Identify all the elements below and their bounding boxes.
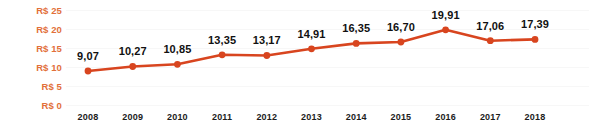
y-axis-tick-label: R$ 5 bbox=[10, 81, 62, 92]
y-axis-tick-label: R$ 0 bbox=[10, 100, 62, 111]
x-axis-tick-label: 2009 bbox=[111, 112, 155, 122]
y-axis-tick-label: R$ 10 bbox=[10, 62, 62, 73]
data-point-marker bbox=[398, 39, 405, 46]
data-point-marker bbox=[532, 36, 539, 43]
data-value-label: 9,07 bbox=[65, 50, 111, 62]
data-value-label: 17,06 bbox=[467, 20, 513, 32]
x-axis-tick-label: 2016 bbox=[424, 112, 468, 122]
data-value-label: 16,35 bbox=[333, 22, 379, 34]
data-value-label: 13,35 bbox=[199, 34, 245, 46]
data-value-label: 19,91 bbox=[423, 9, 469, 21]
line-chart: R$ 0R$ 5R$ 10R$ 15R$ 20R$ 25 20082009201… bbox=[0, 0, 589, 134]
data-point-marker bbox=[353, 40, 360, 47]
data-value-label: 13,17 bbox=[244, 34, 290, 46]
data-value-label: 14,91 bbox=[289, 28, 335, 40]
x-axis-tick-label: 2013 bbox=[290, 112, 334, 122]
data-value-label: 10,27 bbox=[110, 45, 156, 57]
y-axis-tick-label: R$ 15 bbox=[10, 43, 62, 54]
data-point-marker bbox=[219, 51, 226, 58]
y-axis-tick-label: R$ 20 bbox=[10, 24, 62, 35]
x-axis-tick-label: 2015 bbox=[379, 112, 423, 122]
data-point-marker bbox=[174, 61, 181, 68]
x-axis-tick-label: 2012 bbox=[245, 112, 289, 122]
x-axis-tick-label: 2014 bbox=[334, 112, 378, 122]
data-value-label: 16,70 bbox=[378, 21, 424, 33]
data-point-marker bbox=[308, 45, 315, 52]
y-axis-tick-label: R$ 25 bbox=[10, 5, 62, 16]
data-point-marker bbox=[85, 68, 92, 75]
x-axis-tick-label: 2018 bbox=[513, 112, 557, 122]
data-value-label: 17,39 bbox=[512, 18, 558, 30]
data-value-label: 10,85 bbox=[154, 43, 200, 55]
data-point-marker bbox=[129, 63, 136, 70]
x-axis-tick-label: 2010 bbox=[155, 112, 199, 122]
data-point-marker bbox=[263, 52, 270, 59]
x-axis-tick-label: 2011 bbox=[200, 112, 244, 122]
data-point-marker bbox=[487, 37, 494, 44]
data-point-marker bbox=[442, 26, 449, 33]
x-axis-tick-label: 2008 bbox=[66, 112, 110, 122]
x-axis-tick-label: 2017 bbox=[468, 112, 512, 122]
